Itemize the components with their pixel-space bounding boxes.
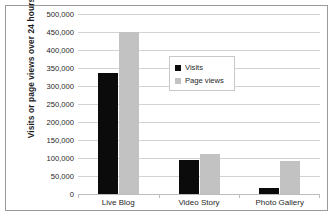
x-axis-label-live-blog: Live Blog	[78, 198, 159, 207]
y-axis-tick-label: 150,000	[47, 136, 74, 145]
gridline	[78, 32, 320, 33]
chart-container: Visits or page views over 24 hours 500,0…	[5, 5, 328, 211]
bar-visits-live-blog	[98, 73, 118, 194]
legend-item-page-views: Page views	[175, 74, 234, 87]
gridline	[78, 14, 320, 15]
bar-page-views-live-blog	[119, 32, 139, 194]
y-axis-tick-label: 0	[70, 190, 74, 199]
y-axis-tick-label: 50,000	[51, 172, 74, 181]
gridline	[78, 194, 320, 195]
legend-swatch-page-views-icon	[175, 78, 181, 84]
x-axis-label-video-story: Video Story	[159, 198, 240, 207]
y-axis-tick-label: 200,000	[47, 118, 74, 127]
y-axis-tick-label: 400,000	[47, 46, 74, 55]
y-axis-title: Visits or page views over 24 hours	[24, 0, 38, 153]
legend-item-visits: Visits	[175, 61, 234, 74]
legend-label-page-views: Page views	[185, 76, 224, 85]
y-axis-tick-label: 300,000	[47, 82, 74, 91]
y-axis-tick-label: 500,000	[47, 10, 74, 19]
x-axis-label-photo-gallery: Photo Gallery	[239, 198, 320, 207]
plot-area: 500,000450,000400,000350,000300,000250,0…	[78, 14, 320, 194]
bar-page-views-video-story	[200, 154, 220, 194]
x-axis-category-labels: Live BlogVideo StoryPhoto Gallery	[78, 198, 320, 212]
bar-page-views-photo-gallery	[280, 161, 300, 194]
chart-legend: Visits Page views	[169, 56, 235, 91]
y-axis-tick-label: 100,000	[47, 154, 74, 163]
legend-swatch-visits-icon	[175, 65, 181, 71]
bar-visits-photo-gallery	[259, 188, 279, 194]
bar-visits-video-story	[179, 160, 199, 194]
y-axis-tick-label: 450,000	[47, 28, 74, 37]
y-axis-tick-label: 250,000	[47, 100, 74, 109]
legend-label-visits: Visits	[185, 63, 203, 72]
gridline	[78, 50, 320, 51]
y-axis-tick-label: 350,000	[47, 64, 74, 73]
